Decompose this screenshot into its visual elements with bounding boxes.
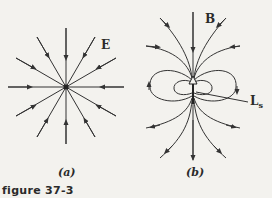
panel-a-caption: (a): [58, 166, 76, 179]
figure-canvas: [0, 0, 272, 198]
point-charge: [64, 85, 69, 90]
spin-vector-subscript: s: [258, 100, 263, 110]
e-field-label: E: [101, 38, 110, 52]
panel-b-caption: (b): [186, 166, 204, 179]
b-field-label: B: [205, 12, 215, 26]
spin-vector-label: Ls: [250, 94, 263, 110]
spin-vector: [189, 76, 248, 104]
figure-caption: figure 37-3: [2, 184, 74, 197]
